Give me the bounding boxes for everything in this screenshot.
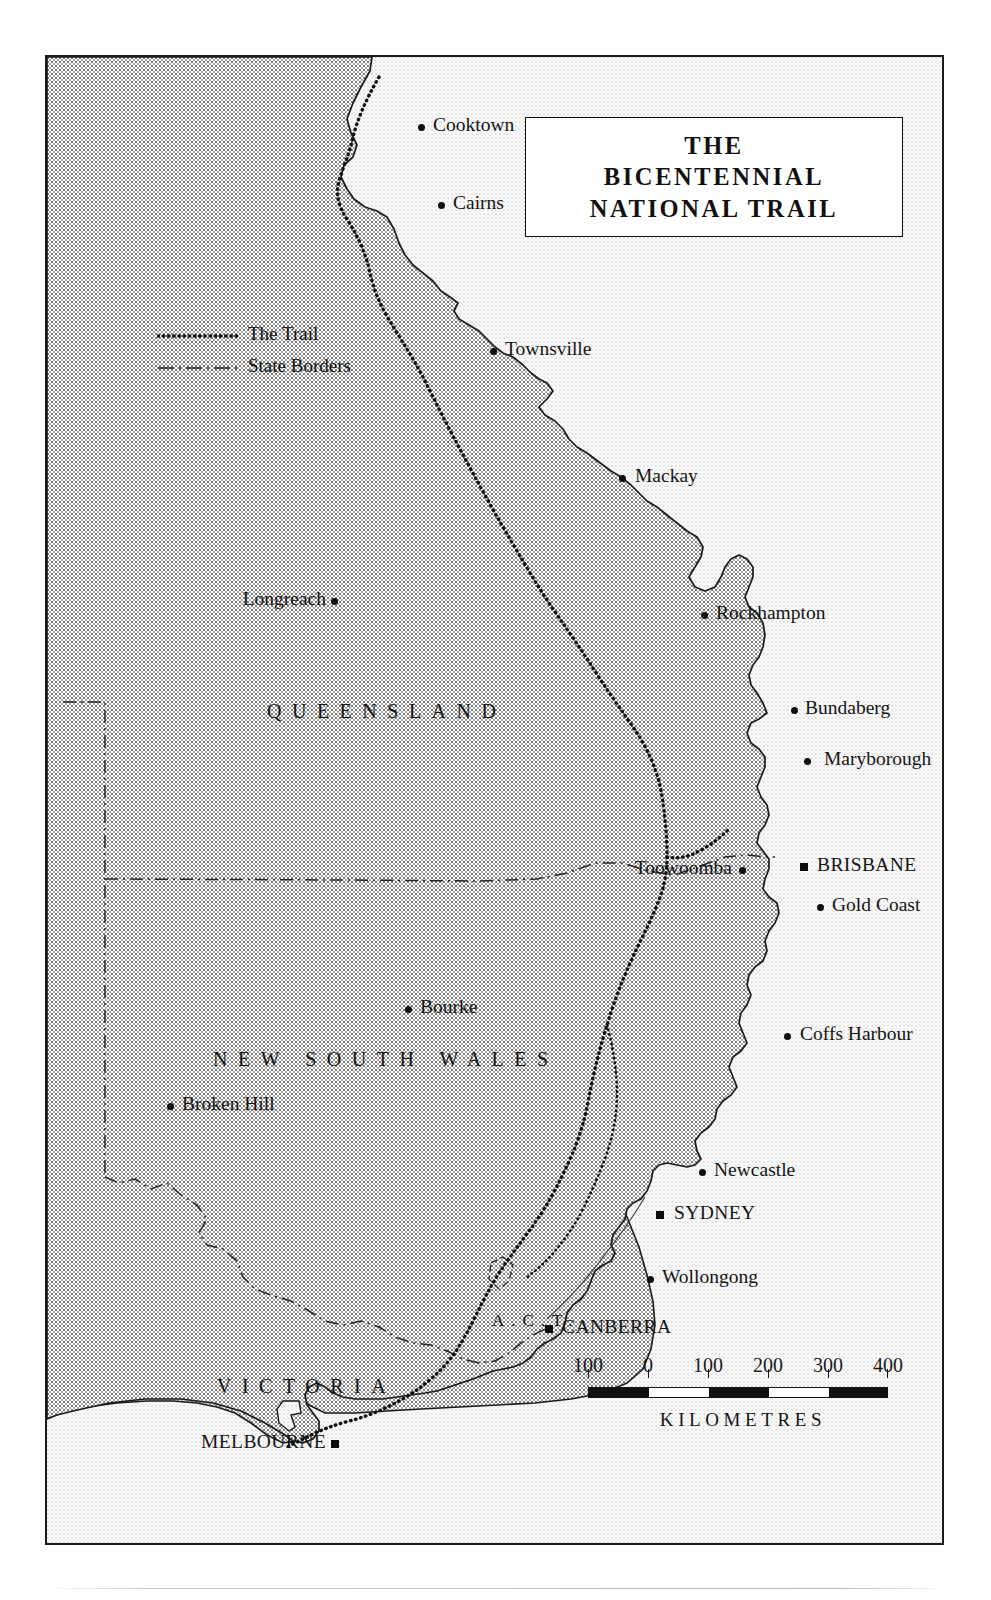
scale-tick-label: 400 — [873, 1354, 903, 1377]
city-marker-mackay — [619, 475, 626, 482]
city-marker-brisbane — [800, 863, 808, 871]
city-label-mackay: Mackay — [635, 465, 698, 487]
scale-segment — [709, 1388, 769, 1397]
city-label-maryborough: Maryborough — [824, 748, 931, 770]
city-label-gold-coast: Gold Coast — [832, 894, 920, 916]
territory-label-act: A.C.T. — [492, 1311, 580, 1331]
city-label-cooktown: Cooktown — [433, 114, 514, 136]
title-card: THE BICENTENNIAL NATIONAL TRAIL — [525, 117, 903, 237]
city-marker-rockhampton — [701, 612, 708, 619]
city-label-bourke: Bourke — [420, 996, 477, 1018]
city-label-longreach: Longreach — [243, 588, 326, 610]
scale-bar: 100 0 100 200 300 400 KILOMETRES — [580, 1354, 900, 1431]
city-label-toowoomba: Toowoomba — [635, 857, 732, 879]
scale-segment — [829, 1388, 887, 1397]
map-page: The Trail State Borders 100 0 100 200 30… — [0, 0, 991, 1600]
legend-item-state-borders: State Borders — [157, 350, 351, 382]
city-marker-cairns — [438, 202, 445, 209]
city-marker-bourke — [405, 1006, 412, 1013]
dash-dot-line-icon — [157, 360, 239, 372]
dotted-line-icon — [157, 328, 239, 340]
city-label-coffs-harbour: Coffs Harbour — [800, 1023, 913, 1045]
city-marker-toowoomba — [739, 867, 746, 874]
scale-segment — [769, 1388, 829, 1397]
scale-tick-labels: 100 0 100 200 300 400 — [580, 1354, 900, 1378]
city-marker-newcastle — [699, 1169, 706, 1176]
city-marker-broken-hill — [167, 1103, 174, 1110]
city-marker-townsville — [490, 348, 497, 355]
city-label-rockhampton: Rockhampton — [716, 602, 825, 624]
city-label-sydney: SYDNEY — [674, 1202, 756, 1224]
city-label-brisbane: BRISBANE — [817, 854, 917, 876]
city-marker-coffs-harbour — [784, 1033, 791, 1040]
city-label-cairns: Cairns — [453, 192, 504, 214]
city-marker-cooktown — [418, 124, 425, 131]
legend-item-trail: The Trail — [157, 318, 351, 350]
city-label-overlay: CooktownCairnsTownsvilleMackayLongreachR… — [45, 55, 944, 1545]
scale-segment — [589, 1388, 649, 1397]
city-label-bundaberg: Bundaberg — [805, 697, 890, 719]
title-line-2: BICENTENNIAL — [590, 161, 839, 192]
scale-caption: KILOMETRES — [580, 1409, 900, 1431]
state-label-victoria: VICTORIA — [217, 1375, 396, 1398]
city-label-wollongong: Wollongong — [662, 1266, 758, 1288]
title-line-1: THE — [590, 130, 839, 161]
city-marker-melbourne — [331, 1440, 339, 1448]
city-marker-wollongong — [647, 1276, 654, 1283]
city-label-townsville: Townsville — [505, 338, 591, 360]
city-marker-sydney — [656, 1211, 664, 1219]
legend-label-state-borders: State Borders — [248, 355, 351, 377]
city-label-broken-hill: Broken Hill — [182, 1093, 275, 1115]
city-marker-bundaberg — [791, 707, 798, 714]
city-label-newcastle: Newcastle — [714, 1159, 795, 1181]
city-marker-maryborough — [804, 758, 811, 765]
title-line-3: NATIONAL TRAIL — [590, 193, 839, 224]
legend-label-trail: The Trail — [248, 323, 318, 345]
city-marker-gold-coast — [817, 904, 824, 911]
legend: The Trail State Borders — [157, 318, 351, 382]
page-bottom-rule — [40, 1588, 950, 1589]
city-label-melbourne: MELBOURNE — [201, 1431, 326, 1453]
state-label-new-south-wales: NEW SOUTH WALES — [213, 1048, 559, 1071]
city-marker-longreach — [331, 598, 338, 605]
state-label-queensland: QUEENSLAND — [267, 700, 506, 723]
scale-ticks — [588, 1378, 888, 1387]
scale-bar-graphic — [588, 1387, 888, 1398]
scale-segment — [649, 1388, 709, 1397]
